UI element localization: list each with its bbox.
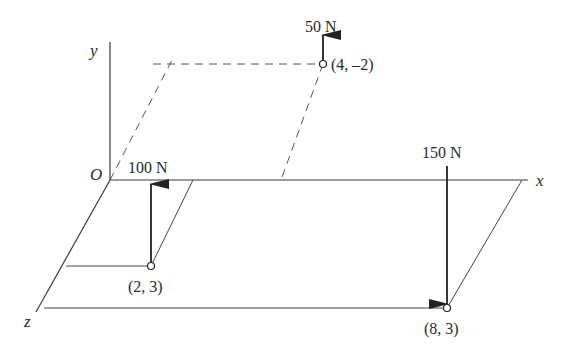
axes [36,42,528,312]
point-4-neg2 [320,61,327,68]
y-axis-label: y [88,41,98,60]
force-arrows [151,35,447,304]
points [148,61,451,312]
force-100N-label: 100 N [128,159,168,176]
point-8-3-label: (8, 3) [424,320,459,338]
plane-lines [44,180,522,308]
z-axis-label: z [23,312,31,331]
x-axis-label: x [535,171,544,190]
force-diagram: y x z O 100 N (2, 3) 50 N (4, –2) 150 N … [0,0,572,352]
origin-label: O [90,165,102,184]
point-2-3-label: (2, 3) [128,278,163,296]
force-50N-label: 50 N [305,18,337,35]
point-4-neg2-label: (4, –2) [331,56,374,74]
z-axis [36,180,110,312]
force-150N-label: 150 N [422,144,462,161]
point-2-3 [148,263,155,270]
point-8-3 [444,305,451,312]
